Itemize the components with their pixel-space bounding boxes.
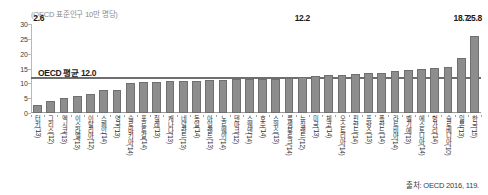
x-axis-label: 라트비아('14) xyxy=(392,115,398,150)
x-axis-label: 터키('13) xyxy=(34,115,40,138)
bar-column[interactable] xyxy=(86,24,95,113)
bar-column[interactable] xyxy=(126,24,135,113)
bar-column[interactable] xyxy=(60,24,69,113)
bar-column[interactable] xyxy=(311,24,320,113)
bar[interactable] xyxy=(232,79,241,113)
bar-column[interactable] xyxy=(113,24,122,113)
x-axis-label: 슬로바키아('14) xyxy=(127,115,133,155)
bar-column[interactable] xyxy=(99,24,108,113)
x-tick-mark xyxy=(124,115,125,117)
bar-column[interactable] xyxy=(205,24,214,113)
bar-column[interactable] xyxy=(139,24,148,113)
x-tick-mark xyxy=(335,115,336,117)
bar-column[interactable]: 25.8 xyxy=(470,24,479,113)
x-axis-label: 슬로베니아('10) xyxy=(445,115,451,155)
bar-column[interactable] xyxy=(219,24,228,113)
bar[interactable] xyxy=(430,68,439,113)
x-axis-label: 이탈리아('12) xyxy=(87,115,93,150)
bar-column[interactable] xyxy=(444,24,453,113)
bar[interactable] xyxy=(377,73,386,113)
bar[interactable] xyxy=(219,80,228,113)
bar[interactable] xyxy=(417,69,426,114)
x-axis-label: 포르투갈('14) xyxy=(140,115,146,150)
bar-column[interactable] xyxy=(430,24,439,113)
bar[interactable] xyxy=(139,82,148,113)
bar[interactable] xyxy=(192,81,201,113)
bar-column[interactable] xyxy=(377,24,386,113)
x-tick-mark xyxy=(203,115,204,117)
bar-column[interactable] xyxy=(417,24,426,113)
bar-column[interactable] xyxy=(152,24,161,113)
y-tick-label: 15 xyxy=(20,65,28,72)
x-axis-label: 스페인('14) xyxy=(101,115,107,144)
bar-column[interactable] xyxy=(271,24,280,113)
x-axis-label: 독일('14) xyxy=(193,115,199,138)
x-tick-mark xyxy=(150,115,151,117)
x-tick-mark xyxy=(190,115,191,117)
bar-column[interactable] xyxy=(179,24,188,113)
bar-value-label: 2.6 xyxy=(33,13,44,23)
bar[interactable]: 12.2 xyxy=(298,77,307,113)
bar[interactable] xyxy=(113,90,122,113)
bar-column[interactable] xyxy=(404,24,413,113)
bar-column[interactable]: 18.7 xyxy=(457,24,466,113)
bar[interactable] xyxy=(99,90,108,113)
bar[interactable] xyxy=(444,67,453,113)
bar[interactable] xyxy=(179,81,188,113)
bar[interactable] xyxy=(126,83,135,113)
x-axis-label: 노르웨이('14) xyxy=(220,115,226,150)
bar[interactable] xyxy=(86,94,95,113)
x-axis-label: 칠레('13) xyxy=(154,115,160,138)
bar[interactable] xyxy=(152,82,161,113)
bar[interactable]: 18.7 xyxy=(457,58,466,113)
bar-column[interactable] xyxy=(351,24,360,113)
bar[interactable] xyxy=(311,76,320,113)
x-tick-mark xyxy=(216,115,217,117)
bar-column[interactable] xyxy=(232,24,241,113)
bar[interactable] xyxy=(404,70,413,113)
bar-column[interactable]: 12.2 xyxy=(298,24,307,113)
bar[interactable] xyxy=(285,78,294,113)
bar-column[interactable] xyxy=(245,24,254,113)
bar[interactable] xyxy=(364,73,373,113)
bar[interactable] xyxy=(73,96,82,113)
bar-column[interactable] xyxy=(324,24,333,113)
bar-column[interactable] xyxy=(166,24,175,113)
bar[interactable] xyxy=(391,71,400,113)
x-tick-mark xyxy=(402,115,403,117)
bar-column[interactable] xyxy=(258,24,267,113)
x-tick-mark xyxy=(428,115,429,117)
bar-column[interactable] xyxy=(192,24,201,113)
x-axis-label: 일본('13) xyxy=(458,115,464,138)
bar-column[interactable] xyxy=(46,24,55,113)
x-tick-mark xyxy=(415,115,416,117)
bar[interactable] xyxy=(60,98,69,113)
bar[interactable] xyxy=(205,80,214,113)
bar-column[interactable] xyxy=(338,24,347,113)
bar[interactable] xyxy=(245,79,254,113)
bar-column[interactable] xyxy=(285,24,294,113)
bar[interactable]: 2.6 xyxy=(33,105,42,113)
x-tick-mark xyxy=(137,115,138,117)
x-tick-mark xyxy=(362,115,363,117)
bar[interactable] xyxy=(271,79,280,113)
bar[interactable] xyxy=(324,75,333,113)
bar[interactable] xyxy=(338,75,347,113)
y-tick-label: 10 xyxy=(20,80,28,87)
bar[interactable] xyxy=(351,74,360,113)
x-tick-mark xyxy=(71,115,72,117)
x-axis-label: 캐나다('13) xyxy=(167,115,173,144)
x-axis-label: 한국('15) xyxy=(471,115,477,138)
bar[interactable]: 25.8 xyxy=(470,36,479,113)
bar-column[interactable] xyxy=(391,24,400,113)
bar[interactable] xyxy=(258,79,267,113)
x-axis-label: 그리스('12) xyxy=(48,115,54,144)
y-tick-label: 25 xyxy=(20,35,28,42)
bar-column[interactable] xyxy=(364,24,373,113)
bar[interactable] xyxy=(166,81,175,113)
bar[interactable] xyxy=(46,101,55,113)
x-axis-label: 영국('13) xyxy=(114,115,120,138)
bar-column[interactable]: 2.6 xyxy=(33,24,42,113)
bar-column[interactable] xyxy=(73,24,82,113)
x-axis-label: 벨기에('13) xyxy=(405,115,411,144)
